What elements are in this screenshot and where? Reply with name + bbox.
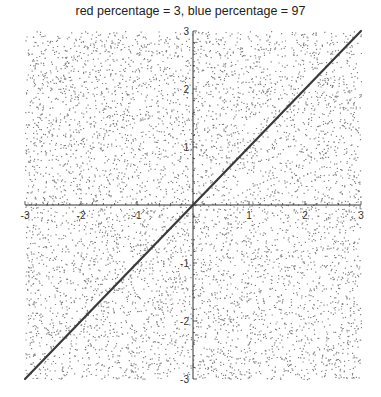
y-tick-label: 1	[183, 142, 189, 153]
x-tick-label: -2	[77, 210, 86, 221]
x-tick-label: -1	[133, 210, 142, 221]
y-tick-label: 2	[183, 84, 189, 95]
x-tick-label: 3	[358, 210, 364, 221]
y-tick-label: -2	[180, 316, 189, 327]
x-tick-label: -3	[21, 210, 30, 221]
scatter-plot: -3-2-1123321-1-2-3	[0, 0, 381, 397]
x-tick-label: 2	[302, 210, 308, 221]
y-tick-label: -1	[180, 258, 189, 269]
y-tick-label: -3	[180, 374, 189, 385]
y-tick-label: 3	[183, 26, 189, 37]
x-tick-label: 1	[246, 210, 252, 221]
